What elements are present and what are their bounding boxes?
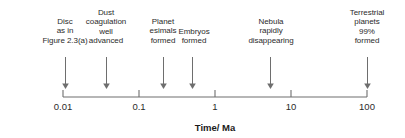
time-axis (0, 0, 405, 138)
axis-title: Time/ Ma (195, 122, 235, 133)
tick-label: 10 (286, 101, 297, 112)
tick-label: 0.1 (132, 101, 145, 112)
tick-label: 0.01 (54, 101, 73, 112)
tick-label: 1 (212, 101, 217, 112)
timeline-figure: Discas inFigure 2.3(a)Dustcoagulationwel… (0, 0, 405, 138)
tick-label: 100 (359, 101, 375, 112)
